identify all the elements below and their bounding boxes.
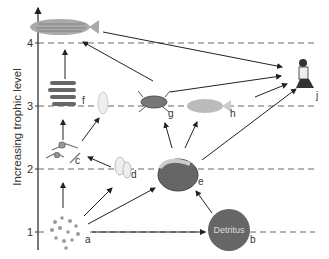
croaker-fish-icon bbox=[187, 99, 231, 113]
node-label-f: f bbox=[82, 95, 85, 106]
blue-crab-icon bbox=[138, 91, 170, 112]
level-2-tick: 2 bbox=[27, 163, 33, 175]
level-1-tick: 1 bbox=[27, 226, 33, 238]
food-web-diagram bbox=[0, 0, 329, 259]
level-gridlines bbox=[38, 43, 315, 232]
node-label-b: b bbox=[250, 234, 256, 245]
level-3-tick: 3 bbox=[27, 100, 33, 112]
node-label-e: e bbox=[198, 176, 204, 187]
node-label-g: g bbox=[168, 108, 174, 119]
node-label-j: j bbox=[316, 90, 318, 101]
y-axis-label: Increasing trophic level bbox=[11, 57, 25, 197]
small-fish-school-icon bbox=[48, 81, 76, 106]
food-web-arrows bbox=[63, 32, 296, 232]
jellyfish-icon bbox=[98, 92, 108, 114]
level-4-tick: 4 bbox=[27, 37, 33, 49]
human-fisher-icon bbox=[296, 59, 314, 88]
clam-icon bbox=[158, 159, 198, 191]
node-label-c: c bbox=[75, 155, 80, 166]
node-label-d: d bbox=[131, 169, 137, 180]
detritus-label: Detritus bbox=[207, 225, 251, 235]
striped-bass-icon bbox=[30, 19, 99, 35]
bivalve-larvae-icon bbox=[115, 157, 131, 178]
node-label-a: a bbox=[85, 234, 91, 245]
node-label-h: h bbox=[230, 108, 236, 119]
phytoplankton-icon bbox=[50, 216, 80, 250]
